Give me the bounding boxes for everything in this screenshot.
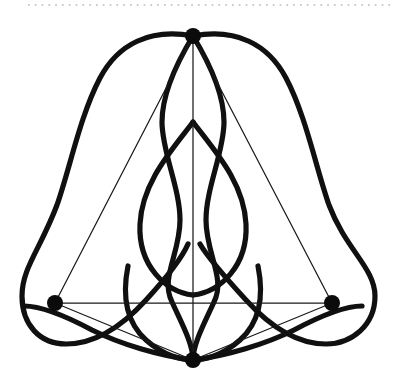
edge-left-bottom [55,303,193,360]
vertex-right [324,295,340,311]
curve-outer-lobe-right [193,34,375,344]
vertex-bottom [185,352,201,368]
vertex-top [185,28,201,44]
knot-graph-diagram: Knotted graph diagram [0,0,411,392]
curve-inner-lens-left [162,36,193,360]
figure-root: Knotted graph diagram [0,0,411,392]
curve-outer-lobe-left [22,34,193,344]
vertex-left [47,295,63,311]
edge-right-bottom [193,303,332,360]
curve-inner-lens-right [193,36,224,360]
